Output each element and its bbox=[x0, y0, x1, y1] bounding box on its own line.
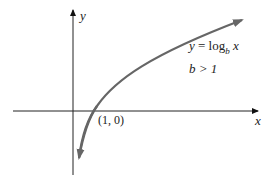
equation-arg: x bbox=[230, 38, 239, 53]
equation-log: = log bbox=[195, 38, 225, 53]
x-axis-label: x bbox=[255, 113, 261, 129]
log-graph bbox=[0, 0, 268, 179]
condition-label: b > 1 bbox=[189, 61, 217, 77]
equation-label: y = logb x bbox=[189, 38, 239, 56]
point-label: (1, 0) bbox=[98, 113, 124, 128]
y-axis-label: y bbox=[80, 8, 86, 24]
